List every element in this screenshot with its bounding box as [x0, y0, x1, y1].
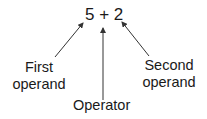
second-operand-arrow	[122, 22, 149, 56]
second-operand-line1: Second	[138, 57, 200, 74]
expression: 5 + 2	[85, 6, 123, 23]
first-operand-line1: First	[12, 59, 66, 76]
first-operand-arrow	[55, 23, 83, 57]
first-operand-label: First operand	[12, 59, 66, 93]
first-operand-line2: operand	[12, 76, 66, 93]
operator-label: Operator	[73, 97, 130, 114]
second-operand-label: Second operand	[138, 57, 200, 91]
operand-diagram: 5 + 2 First operand Operator Second oper…	[0, 0, 207, 119]
second-operand-line2: operand	[138, 74, 200, 91]
